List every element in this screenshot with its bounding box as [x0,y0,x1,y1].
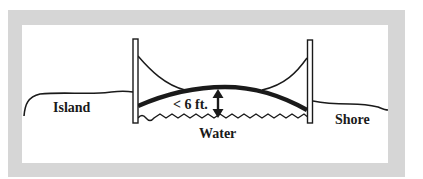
water-label: Water [199,127,236,141]
bridge-deck [138,87,307,110]
right-bridge-tower [308,40,313,123]
clearance-arrow-icon [213,89,224,118]
water-surface [138,114,309,121]
left-suspension-cable [138,56,185,90]
left-bridge-tower [133,39,138,123]
clearance-label: < 6 ft. [173,98,208,112]
bridge-diagram [0,0,423,179]
shore-ground-line [313,101,388,110]
island-label: Island [53,101,90,115]
shore-label: Shore [335,113,370,127]
right-suspension-cable [262,58,307,90]
